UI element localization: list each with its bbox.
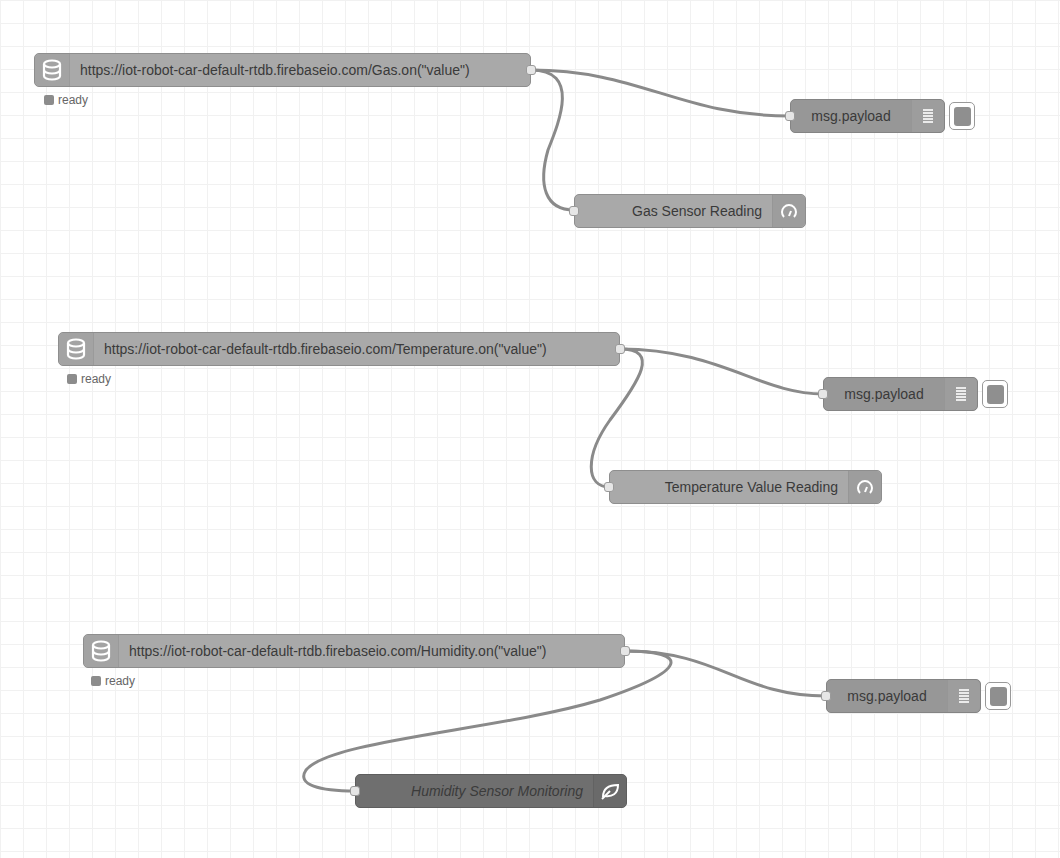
node-label: https://iot-robot-car-default-rtdb.fireb… [70, 62, 530, 78]
wire-hum-to-monitor [304, 651, 671, 791]
monitor-node-humidity[interactable]: Humidity Sensor Monitoring [355, 774, 627, 808]
node-label: msg.payload [824, 386, 944, 402]
node-label: Gas Sensor Reading [575, 203, 772, 219]
list-icon [947, 680, 980, 712]
input-port[interactable] [569, 206, 579, 216]
wire-gas-to-debug [531, 70, 790, 116]
node-label: msg.payload [827, 688, 947, 704]
status-text: ready [58, 93, 88, 107]
debug-toggle-button[interactable] [949, 102, 975, 130]
debug-node-gas[interactable]: msg.payload [790, 99, 945, 133]
firebase-temperature-node[interactable]: https://iot-robot-car-default-rtdb.fireb… [58, 332, 620, 366]
flow-canvas[interactable]: https://iot-robot-car-default-rtdb.fireb… [0, 0, 1060, 858]
gauge-node-gas[interactable]: Gas Sensor Reading [574, 194, 806, 228]
firebase-gas-node[interactable]: https://iot-robot-car-default-rtdb.fireb… [34, 53, 531, 87]
list-icon [911, 100, 944, 132]
node-status: ready [44, 93, 88, 107]
wire-temp-to-gauge [591, 349, 642, 487]
status-dot-icon [44, 95, 54, 105]
gauge-icon [848, 471, 881, 503]
gauge-icon [772, 195, 805, 227]
node-status: ready [67, 372, 111, 386]
list-icon [944, 378, 977, 410]
node-label: https://iot-robot-car-default-rtdb.fireb… [94, 341, 619, 357]
leaf-icon [593, 775, 626, 807]
status-dot-icon [91, 676, 101, 686]
debug-node-temperature[interactable]: msg.payload [823, 377, 978, 411]
debug-toggle-button[interactable] [982, 380, 1008, 408]
node-label: msg.payload [791, 108, 911, 124]
output-port[interactable] [620, 646, 630, 656]
debug-toggle-button[interactable] [985, 682, 1011, 710]
firebase-humidity-node[interactable]: https://iot-robot-car-default-rtdb.fireb… [83, 634, 625, 668]
debug-node-humidity[interactable]: msg.payload [826, 679, 981, 713]
output-port[interactable] [526, 65, 536, 75]
status-text: ready [81, 372, 111, 386]
input-port[interactable] [818, 389, 828, 399]
input-port[interactable] [350, 786, 360, 796]
wire-temp-to-debug [620, 349, 823, 394]
status-text: ready [105, 674, 135, 688]
node-label: Temperature Value Reading [610, 479, 848, 495]
wire-gas-to-gauge [531, 70, 574, 210]
node-status: ready [91, 674, 135, 688]
gauge-node-temperature[interactable]: Temperature Value Reading [609, 470, 882, 504]
wire-hum-to-debug [625, 651, 826, 696]
database-icon [59, 333, 94, 365]
status-dot-icon [67, 374, 77, 384]
input-port[interactable] [604, 482, 614, 492]
database-icon [84, 635, 119, 667]
node-label: Humidity Sensor Monitoring [356, 783, 593, 799]
input-port[interactable] [821, 691, 831, 701]
node-label: https://iot-robot-car-default-rtdb.fireb… [119, 643, 624, 659]
input-port[interactable] [785, 111, 795, 121]
database-icon [35, 54, 70, 86]
output-port[interactable] [615, 344, 625, 354]
